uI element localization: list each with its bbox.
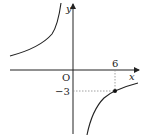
curve-branch-upper-left: [10, 3, 61, 56]
y-axis-label: y: [65, 3, 72, 14]
origin-label: O: [62, 72, 70, 83]
hyperbola-diagram: y x O 6 −3: [0, 0, 147, 139]
y-tick-neg3: −3: [55, 86, 70, 97]
x-tick-6: 6: [112, 58, 118, 69]
x-axis-label: x: [129, 71, 135, 82]
point-marker: [113, 89, 117, 93]
